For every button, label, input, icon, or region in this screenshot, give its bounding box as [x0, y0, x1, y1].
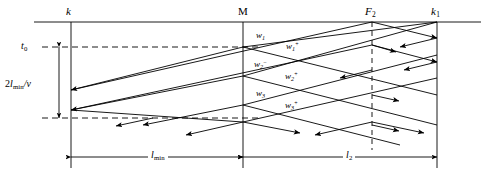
ray-arrow-mid-2: [372, 95, 399, 101]
label-w2-minus: w2−: [254, 60, 267, 70]
label-M: M: [238, 6, 248, 17]
label-lmin-sub: min: [154, 154, 165, 161]
label-rt-suffix: /v: [24, 78, 31, 89]
label-w1: w1: [256, 31, 265, 41]
label-k: k: [66, 6, 71, 17]
diagram-canvas: [0, 0, 489, 177]
ray-arrow-low-2: [186, 122, 243, 135]
label-t0-sub: 0: [24, 45, 28, 52]
ray-M-refl-3: [243, 105, 400, 145]
label-l-min: lmin: [148, 150, 168, 162]
label-l2-sub: 2: [349, 154, 353, 161]
ray-down-2a: [243, 22, 437, 76]
label-w3p-sup: +: [294, 100, 298, 106]
ray-arrow-left-2: [404, 62, 437, 70]
ray-down-1b: [71, 47, 243, 90]
ray-arrow-low-3: [315, 122, 372, 135]
ray-diagram-figure: k M F2 k1 t0 2lmin/v w1 w1+ w2− w2+ w3 w…: [0, 0, 489, 177]
label-w1p-sup: +: [295, 41, 299, 47]
label-k1: k1: [431, 6, 440, 19]
ray-down-1a: [243, 22, 437, 47]
ray-down-4b: [71, 110, 243, 122]
ray-arrow-low-4: [372, 122, 424, 133]
label-w2m-sup: −: [263, 59, 267, 65]
label-t0: t0: [21, 41, 27, 53]
ray-arrow-left-3: [340, 70, 372, 78]
ray-down-4a: [243, 78, 437, 122]
label-k1-sub: 1: [436, 10, 440, 19]
label-F2: F2: [365, 6, 376, 19]
ray-arrow-left-1: [400, 38, 437, 47]
label-w3-plus: w3+: [285, 101, 298, 111]
label-w1-plus: w1+: [286, 42, 299, 52]
ray-arrow-low-1: [243, 122, 300, 133]
ray-down-3b: [143, 105, 243, 125]
ray-down-3a: [243, 55, 437, 105]
ray-down-2b: [71, 76, 243, 110]
label-round-trip-time: 2lmin/v: [5, 79, 31, 91]
ray-arrow-mid-1: [372, 45, 396, 52]
label-w3: w3: [256, 89, 265, 99]
label-F2-sub: 2: [372, 10, 376, 19]
ray-arrow-mid-3: [372, 125, 399, 131]
label-F2-base: F: [365, 5, 372, 17]
label-w1-sub: 1: [262, 35, 265, 41]
ray-arrow-low-5: [116, 118, 153, 126]
ray-M-refl-2: [243, 76, 437, 125]
label-w2p-sup: +: [294, 71, 298, 77]
label-w2-plus: w2+: [285, 72, 298, 82]
label-w3-sub: 3: [262, 93, 265, 99]
ray-up-2a: [71, 45, 372, 110]
label-l2: l2: [343, 150, 355, 162]
label-rt-sub: min: [13, 83, 24, 90]
